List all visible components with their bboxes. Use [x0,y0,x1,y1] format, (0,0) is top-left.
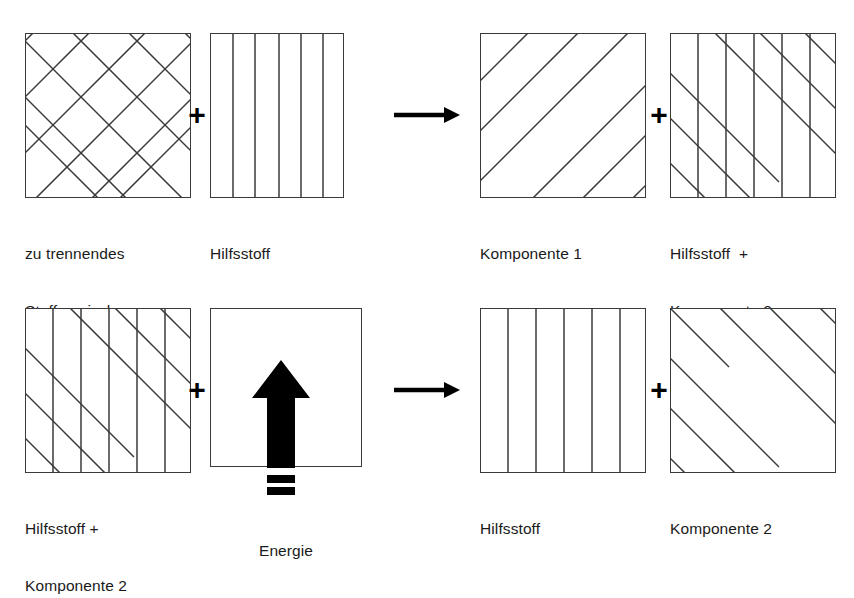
vertical-plus-diagonal-down-pattern-icon [670,33,836,198]
plus-operator-top-left: + [184,100,210,130]
label-line-1: Hilfsstoff [480,519,660,538]
box-zu-trennendes-stoffgemisch [25,33,191,198]
label-hilfsstoff-bottom: Hilfsstoff [480,481,660,576]
label-line-1: Komponente 1 [480,244,660,263]
label-line-1: zu trennendes [25,244,205,263]
label-komponente-1: Komponente 1 [480,206,660,301]
label-line-1: Hilfsstoff [210,244,390,263]
box-komponente-1 [480,33,646,198]
box-hilfsstoff-top [210,33,344,198]
label-line-1: Energie [210,541,362,560]
label-line-1: Hilfsstoff + [25,519,205,538]
plus-operator-bottom-left: + [184,375,210,405]
label-line-2: Komponente 2 [25,576,205,595]
arrow-right-icon [392,100,462,130]
crosshatch-pattern-icon [25,33,191,198]
box-hilfsstoff-bottom [480,308,646,473]
vertical-lines-pattern-icon [480,308,646,473]
vertical-lines-pattern-icon [210,33,344,198]
plus-operator-top-right: + [646,100,672,130]
reaction-arrow-top [392,100,462,130]
diagonal-up-pattern-icon [480,33,646,198]
reaction-arrow-bottom [392,375,462,405]
label-hilfsstoff-top: Hilfsstoff [210,206,390,301]
label-komponente-2: Komponente 2 [670,481,850,576]
label-hilfsstoff-plus-komponente-2-bottom: Hilfsstoff + Komponente 2 [25,481,205,598]
box-hilfsstoff-plus-komponente-2-bottom [25,308,191,473]
plus-operator-bottom-right: + [646,375,672,405]
vertical-plus-diagonal-down-pattern-icon [25,308,191,473]
diagonal-down-pattern-icon [670,308,836,473]
label-line-1: Hilfsstoff + [670,244,850,263]
label-line-1: Komponente 2 [670,519,850,538]
box-komponente-2 [670,308,836,473]
label-energie: Energie [210,503,362,598]
box-energie [210,308,362,467]
arrow-right-icon [392,375,462,405]
box-hilfsstoff-plus-komponente-2-top [670,33,836,198]
